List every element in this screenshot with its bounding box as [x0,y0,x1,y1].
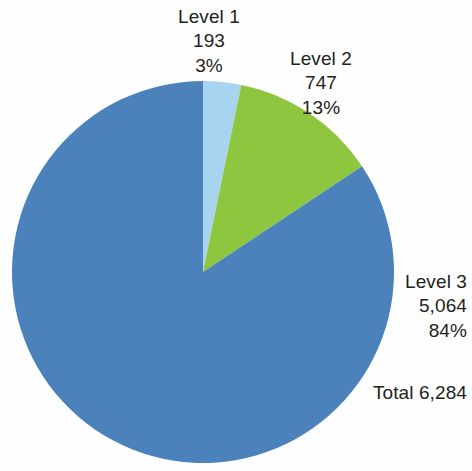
pie-chart-page: Level 1 193 3% Level 2 747 13% Level 3 5… [0,0,472,471]
callout-level-2-value: 747 [226,71,416,95]
callout-total-label: Total 6,284 [255,381,467,405]
callout-level-3-label: Level 3 [285,270,467,294]
callout-total: Total 6,284 [255,381,467,405]
callout-level-3-percent: 84% [285,319,467,343]
callout-level-3: Level 3 5,064 84% [285,270,467,343]
callout-level-2-label: Level 2 [226,47,416,71]
callout-level-1-label: Level 1 [0,5,418,29]
callout-level-2: Level 2 747 13% [226,47,416,120]
callout-level-3-value: 5,064 [285,294,467,318]
callout-level-2-percent: 13% [226,96,416,120]
